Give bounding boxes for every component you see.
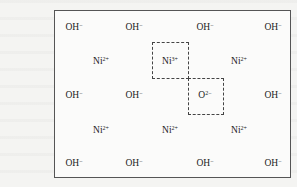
ni-ion: Ni2+: [93, 125, 109, 135]
ion-charge: −: [139, 158, 142, 164]
ion-charge: 2+: [241, 56, 247, 62]
oh-ion: OH−: [196, 158, 213, 168]
oh-ion: OH−: [196, 22, 213, 32]
oh-ion: OH−: [264, 22, 281, 32]
ion-charge: −: [139, 22, 142, 28]
ion-symbol: OH: [264, 90, 278, 100]
ion-symbol: Ni: [162, 56, 172, 66]
ion-charge: 2−: [205, 90, 211, 96]
o-ion: O2−: [198, 90, 211, 100]
oh-ion: OH−: [125, 90, 142, 100]
ion-symbol: OH: [125, 90, 139, 100]
ion-charge: 2+: [103, 125, 109, 131]
ion-charge: −: [139, 90, 142, 96]
ion-charge: 3+: [172, 56, 178, 62]
oh-ion: OH−: [65, 90, 82, 100]
ion-symbol: OH: [125, 22, 139, 32]
oh-ion: OH−: [65, 158, 82, 168]
ion-charge: −: [210, 22, 213, 28]
ion-symbol: O: [198, 90, 205, 100]
oh-ion: OH−: [125, 22, 142, 32]
ion-charge: −: [278, 90, 281, 96]
oh-ion: OH−: [65, 22, 82, 32]
oh-ion: OH−: [264, 90, 281, 100]
ion-symbol: OH: [65, 158, 79, 168]
ion-symbol: Ni: [162, 125, 172, 135]
ion-charge: −: [210, 158, 213, 164]
ion-symbol: OH: [125, 158, 139, 168]
ion-charge: −: [278, 22, 281, 28]
ion-charge: −: [278, 158, 281, 164]
ni-ion: Ni2+: [231, 125, 247, 135]
ion-symbol: Ni: [231, 56, 241, 66]
ni-ion: Ni2+: [93, 56, 109, 66]
ion-symbol: Ni: [93, 125, 103, 135]
ion-charge: 2+: [103, 56, 109, 62]
ion-symbol: OH: [264, 158, 278, 168]
lattice-frame: [54, 10, 291, 178]
ni-ion: Ni3+: [162, 56, 178, 66]
ion-charge: −: [79, 90, 82, 96]
ion-symbol: OH: [196, 158, 210, 168]
ion-symbol: OH: [65, 90, 79, 100]
ion-symbol: Ni: [93, 56, 103, 66]
ion-symbol: OH: [196, 22, 210, 32]
oh-ion: OH−: [125, 158, 142, 168]
ion-symbol: OH: [264, 22, 278, 32]
ni-ion: Ni2+: [231, 56, 247, 66]
ni-ion: Ni2+: [162, 125, 178, 135]
ion-charge: 2+: [172, 125, 178, 131]
ion-charge: 2+: [241, 125, 247, 131]
ion-symbol: Ni: [231, 125, 241, 135]
ion-charge: −: [79, 22, 82, 28]
ion-charge: −: [79, 158, 82, 164]
ion-symbol: OH: [65, 22, 79, 32]
oh-ion: OH−: [264, 158, 281, 168]
